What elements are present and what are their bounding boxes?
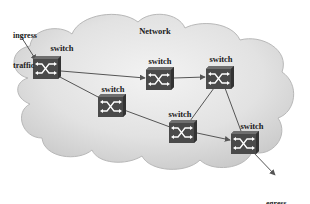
ingress-label: ingress traffic bbox=[13, 11, 37, 91]
egress-label: egress traffic bbox=[266, 179, 287, 204]
switch-label-s5: switch bbox=[168, 109, 191, 119]
switch-icon[interactable] bbox=[33, 56, 61, 79]
switch-icon[interactable] bbox=[206, 66, 234, 89]
switch-icon[interactable] bbox=[169, 120, 197, 143]
switch-icon[interactable] bbox=[231, 131, 259, 154]
switch-label-s6: switch bbox=[240, 121, 263, 131]
switch-label-s1: switch bbox=[50, 43, 73, 53]
switch-label-s2: switch bbox=[101, 84, 124, 94]
egress-link bbox=[253, 152, 275, 175]
network-topology-diagram: Network switch switch switch switch swit… bbox=[0, 0, 310, 204]
ingress-label-line1: ingress bbox=[13, 31, 37, 41]
switch-icon[interactable] bbox=[98, 94, 126, 117]
switch-icon[interactable] bbox=[146, 67, 174, 90]
switch-label-s3: switch bbox=[148, 56, 171, 66]
switch-label-s4: switch bbox=[209, 54, 232, 64]
egress-label-line1: egress bbox=[266, 199, 287, 204]
network-label: Network bbox=[139, 26, 171, 36]
ingress-label-line2: traffic bbox=[13, 61, 37, 71]
